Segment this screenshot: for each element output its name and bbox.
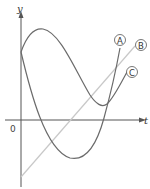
curve-a-label: A — [117, 36, 123, 46]
graph-canvas: y t 0 A B C — [0, 0, 150, 189]
curve-c — [21, 29, 127, 106]
label-a: A — [115, 35, 126, 46]
curve-a — [21, 48, 120, 158]
label-c: C — [127, 67, 138, 78]
t-axis-label: t — [144, 115, 149, 126]
y-axis-label: y — [16, 3, 23, 14]
label-b: B — [136, 40, 147, 51]
curve-b-label: B — [138, 41, 144, 51]
curve-c-label: C — [129, 68, 135, 78]
origin-label: 0 — [10, 124, 16, 134]
